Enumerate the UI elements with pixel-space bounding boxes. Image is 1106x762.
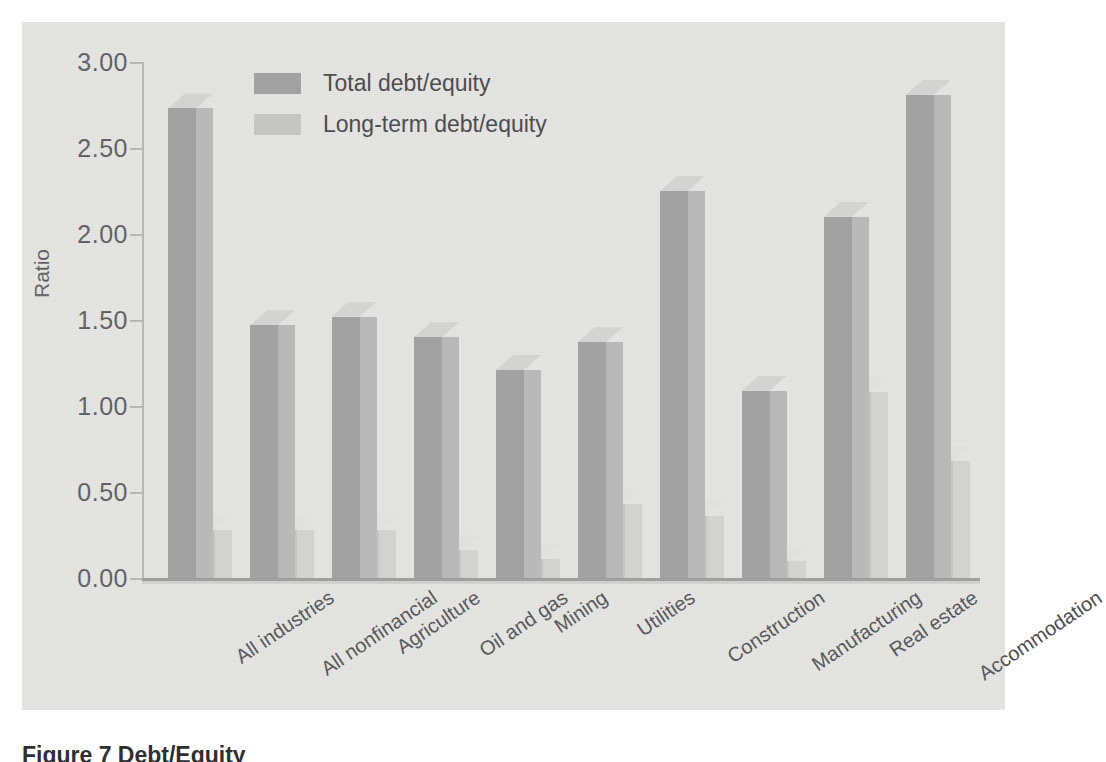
bar [332,317,360,578]
bar [168,108,196,578]
bar-front-face [414,337,442,578]
bar-top-face [414,322,459,337]
y-tick-mark [130,234,142,236]
bar-front-face [578,342,606,578]
y-tick-label: 2.50 [77,134,128,163]
bar-side-face [688,191,705,578]
legend: Total debt/equityLong-term debt/equity [254,70,547,152]
bar-side-face [953,461,970,578]
bar [660,191,688,578]
y-axis-line [142,62,144,578]
bar-front-face [906,95,934,578]
bar [414,337,442,578]
bar-front-face [496,370,524,578]
bar-side-face [278,325,295,578]
bar-side-face [707,516,724,578]
x-axis-shadow [142,581,980,584]
bar-front-face [742,391,770,578]
bar-side-face [461,550,478,578]
legend-swatch [254,114,301,135]
bar [496,370,524,578]
bar-side-face [524,370,541,578]
y-tick-label: 1.00 [77,392,128,421]
figure-caption: Figure 7 Debt/Equity [22,740,722,762]
bar-top-face [496,355,541,370]
legend-label: Long-term debt/equity [323,111,547,138]
y-tick-mark [130,492,142,494]
bar-top-face [742,376,787,391]
y-tick-mark [130,148,142,150]
y-tick-label: 1.50 [77,306,128,335]
bar-side-face [934,95,951,578]
y-tick-label: 0.00 [77,564,128,593]
bar-front-face [824,217,852,578]
bar-side-face [852,217,869,578]
bar-side-face [442,337,459,578]
y-tick-mark [130,320,142,322]
bar-front-face [250,325,278,578]
bar-front-face [168,108,196,578]
bar-top-face [906,80,951,95]
bar-side-face [215,530,232,578]
y-tick-mark [130,406,142,408]
legend-swatch [254,73,301,94]
legend-label: Total debt/equity [323,70,491,97]
bar-top-face [168,93,213,108]
bar-front-face [660,191,688,578]
bar [906,95,934,578]
bar-side-face [196,108,213,578]
bar-top-face [250,310,295,325]
y-axis-title: Ratio [30,249,54,298]
bar-side-face [606,342,623,578]
x-category-label: Utilities [633,586,699,641]
bar-top-face [660,176,705,191]
bar-side-face [360,317,377,578]
bar-top-face [332,302,377,317]
y-tick-label: 3.00 [77,48,128,77]
legend-item: Total debt/equity [254,70,547,97]
y-tick-label: 2.00 [77,220,128,249]
legend-item: Long-term debt/equity [254,111,547,138]
bar-side-face [543,559,560,578]
bar [578,342,606,578]
bar-side-face [625,504,642,578]
bar-top-face [578,327,623,342]
figure-panel: Ratio 0.000.501.001.502.002.503.00 All i… [22,22,1005,710]
bar-top-face [824,202,869,217]
bar-side-face [789,561,806,578]
bar-side-face [770,391,787,578]
bar [742,391,770,578]
bar-side-face [379,530,396,578]
y-tick-mark [130,62,142,64]
bar [824,217,852,578]
bar-side-face [871,392,888,578]
y-tick-mark [130,578,142,580]
bar-front-face [332,317,360,578]
y-tick-label: 0.50 [77,478,128,507]
bar-side-face [297,530,314,578]
x-category-label: Accommodation [975,586,1106,685]
bar [250,325,278,578]
